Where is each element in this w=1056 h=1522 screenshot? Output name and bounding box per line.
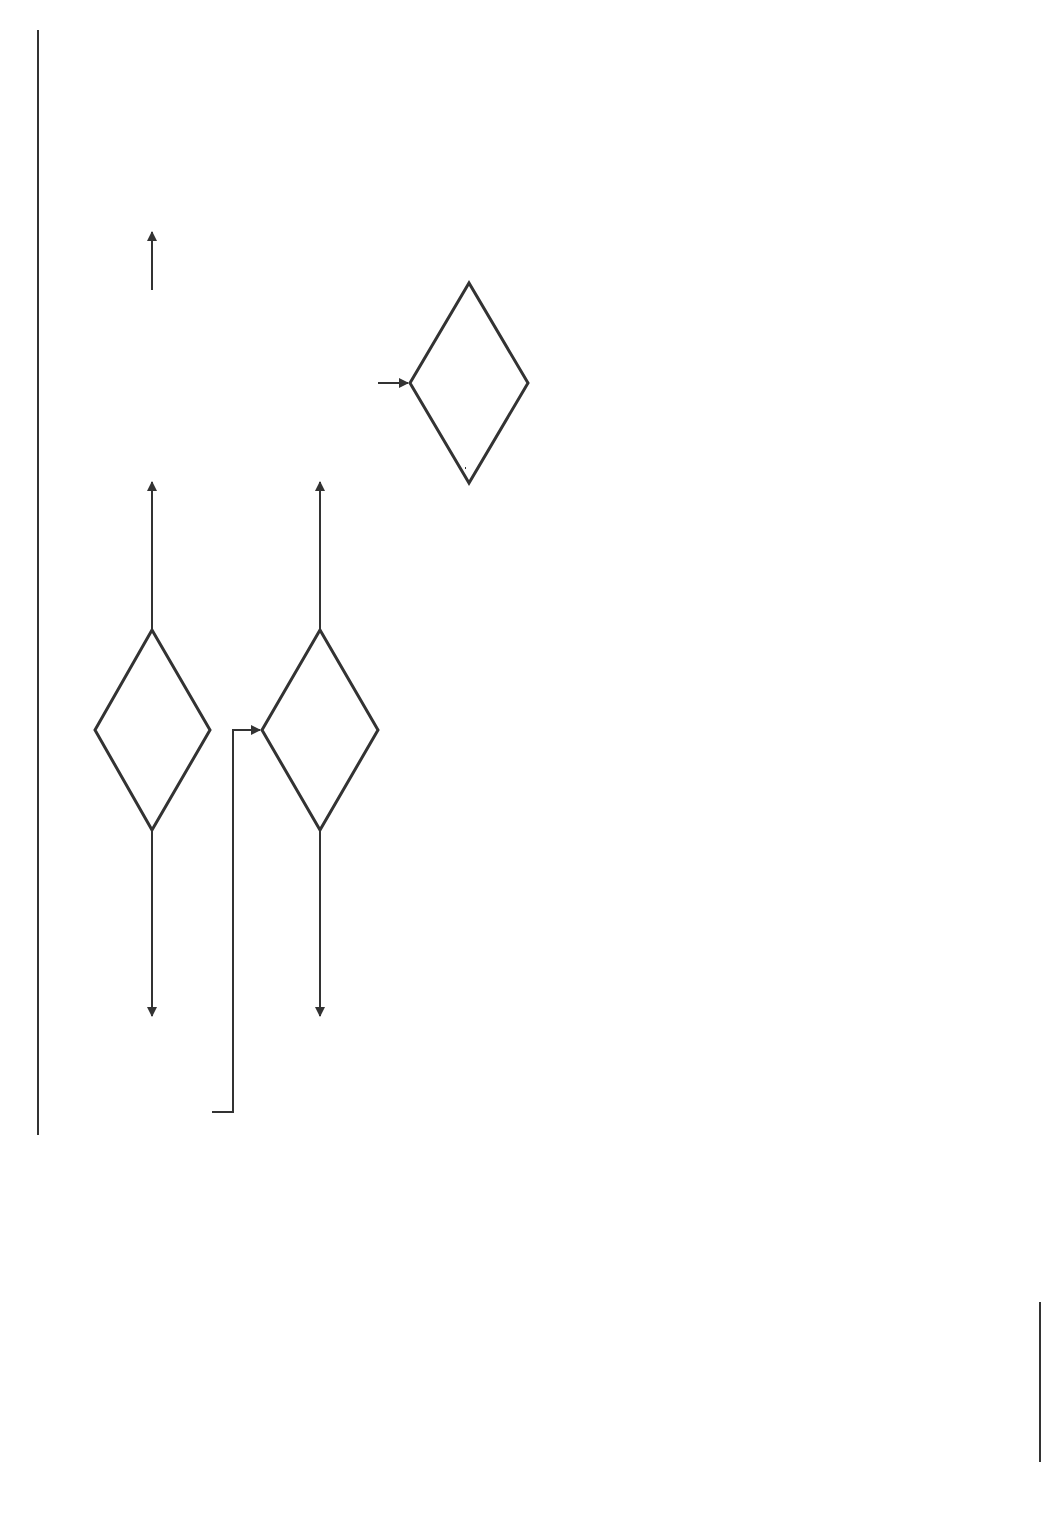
flow-diagram	[0, 0, 1056, 1522]
connector-lines	[0, 0, 1056, 1522]
